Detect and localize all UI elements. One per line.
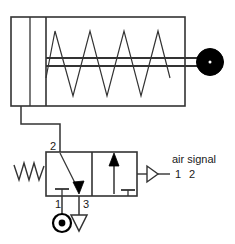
- diagram-canvas: 2 1 3 air signal 1 2: [0, 0, 235, 244]
- pneumatic-circuit-diagram: 2 1 3 air signal 1 2: [0, 0, 235, 244]
- air-signal-number-2: 2: [189, 168, 195, 180]
- port-2-label: 2: [50, 140, 56, 152]
- pressure-source-inner-dot-icon: [59, 220, 66, 227]
- cylinder-assembly: [11, 17, 224, 106]
- cylinder-return-spring: [46, 31, 170, 96]
- air-signal-number-1: 1: [175, 168, 181, 180]
- valve-right-cell-flow-arrowhead-icon: [109, 153, 119, 166]
- exhaust-triangle-icon: [71, 215, 87, 231]
- air-signal-label: air signal: [172, 153, 216, 165]
- rod-end-center-dot-icon: [209, 61, 212, 64]
- valve-pilot-triangle-icon: [147, 166, 158, 182]
- valve-left-cell-flow-arrowhead-icon: [73, 181, 84, 194]
- port-1-label: 1: [55, 198, 61, 210]
- valve-return-spring-icon: [14, 163, 44, 180]
- port-3-label: 3: [83, 198, 89, 210]
- valve-assembly: [14, 152, 170, 196]
